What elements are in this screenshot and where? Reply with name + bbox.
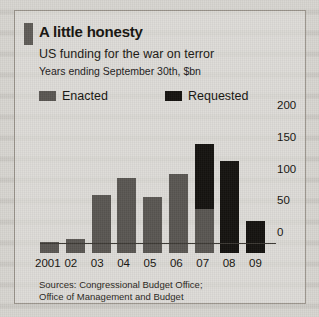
chart-subtitle: US funding for the war on terror [39, 47, 214, 61]
bar-column[interactable] [195, 126, 214, 253]
legend-swatch-enacted [39, 91, 56, 101]
bar-column[interactable] [92, 126, 111, 253]
bar-group [40, 126, 265, 253]
x-axis-tick-label: 2001 [35, 257, 54, 269]
x-axis-tick-label: 04 [114, 257, 133, 269]
y-axis-tick-label: 50 [277, 194, 290, 206]
bar-column[interactable] [117, 126, 136, 253]
y-axis-tick-label: 0 [277, 226, 283, 238]
bar-column[interactable] [246, 126, 265, 253]
bar-column[interactable] [143, 126, 162, 253]
x-axis-tick-label: 02 [61, 257, 80, 269]
bar-column[interactable] [40, 126, 59, 253]
y-axis: 050100150200 [273, 116, 309, 253]
bar-column[interactable] [66, 126, 85, 253]
x-axis-tick-label: 05 [141, 257, 160, 269]
x-axis-tick-label: 03 [88, 257, 107, 269]
x-axis-tick-label: 07 [193, 257, 212, 269]
plot-area [40, 116, 265, 253]
figure-root: A little honesty US funding for the war … [0, 0, 319, 317]
title-accent-bar [24, 23, 33, 45]
sources-line-2: Office of Management and Budget [39, 291, 203, 303]
bar-segment-enacted [195, 209, 214, 253]
chart-units-note: Years ending September 30th, $bn [39, 65, 201, 77]
bar-segment-requested [246, 221, 265, 253]
bar-segment-enacted [143, 197, 162, 253]
x-axis-tick-label: 06 [167, 257, 186, 269]
bar-segment-enacted [169, 174, 188, 253]
x-axis-baseline [40, 243, 276, 244]
legend-item-enacted: Enacted [39, 89, 108, 103]
y-axis-tick-label: 100 [277, 163, 296, 175]
bar-column[interactable] [220, 126, 239, 253]
bar-segment-requested [220, 161, 239, 253]
page-title: A little honesty [39, 23, 143, 40]
sources-line-1: Sources: Congressional Budget Office; [39, 279, 203, 291]
chart-panel: A little honesty US funding for the war … [14, 10, 306, 304]
legend-label: Requested [188, 89, 248, 103]
sources-note: Sources: Congressional Budget Office; Of… [39, 279, 203, 303]
y-axis-tick-label: 150 [277, 131, 296, 143]
legend-swatch-requested [165, 91, 182, 101]
x-axis-tick-label: 09 [246, 257, 265, 269]
x-axis-tick-label: 08 [220, 257, 239, 269]
legend-label: Enacted [62, 89, 108, 103]
legend-item-requested: Requested [165, 89, 248, 103]
y-axis-tick-label: 200 [277, 99, 296, 111]
bar-segment-enacted [66, 239, 85, 253]
bar-segment-enacted [92, 195, 111, 253]
bar-segment-requested [195, 144, 214, 209]
x-axis: 20010203040506070809 [40, 257, 265, 269]
bar-column[interactable] [169, 126, 188, 253]
